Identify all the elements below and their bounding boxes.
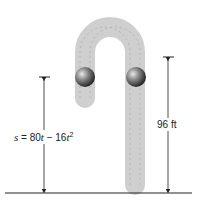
ball-falling — [126, 67, 146, 87]
projectile-diagram — [0, 0, 201, 206]
trajectory-trail — [85, 27, 135, 185]
position-equation: s = 80t − 16t2 — [14, 130, 73, 144]
height-label: 96 ft — [157, 118, 176, 131]
ball-rising — [75, 67, 95, 87]
